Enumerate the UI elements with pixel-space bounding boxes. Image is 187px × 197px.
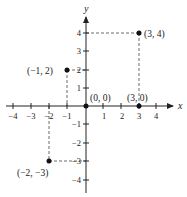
svg-text:4: 4 xyxy=(77,28,82,38)
svg-text:−1: −1 xyxy=(62,111,71,121)
x-tick-labels: −4 −3 −2 −1 1 2 3 4 xyxy=(8,111,158,121)
svg-text:(3, 4): (3, 4) xyxy=(144,29,165,40)
svg-text:3: 3 xyxy=(137,111,141,121)
svg-text:1: 1 xyxy=(102,111,106,121)
svg-text:−3: −3 xyxy=(26,111,35,121)
svg-text:−3: −3 xyxy=(72,156,81,166)
svg-text:(3, 0): (3, 0) xyxy=(127,93,148,104)
svg-text:1: 1 xyxy=(77,83,81,93)
svg-text:−2: −2 xyxy=(44,111,53,121)
svg-text:3: 3 xyxy=(77,46,81,56)
svg-text:(−1, 2): (−1, 2) xyxy=(27,66,53,77)
point-neg2-neg3 xyxy=(47,159,52,164)
svg-text:2: 2 xyxy=(120,111,124,121)
point-0-0 xyxy=(84,104,89,109)
point-3-0 xyxy=(137,104,142,109)
x-axis-label: x xyxy=(177,100,183,111)
point-3-4 xyxy=(137,31,142,36)
y-axis-label: y xyxy=(83,3,89,14)
svg-text:−4: −4 xyxy=(72,175,82,185)
svg-text:(−2, −3): (−2, −3) xyxy=(17,168,48,179)
svg-text:−2: −2 xyxy=(72,138,81,148)
coordinate-plane: x y −4 −3 −2 −1 1 2 3 4 4 3 2 1 −1 xyxy=(0,0,187,197)
svg-text:2: 2 xyxy=(77,65,81,75)
svg-text:(0, 0): (0, 0) xyxy=(90,93,111,104)
svg-text:4: 4 xyxy=(154,111,159,121)
svg-text:−4: −4 xyxy=(8,111,18,121)
point-neg1-2 xyxy=(65,68,70,73)
point-labels: (3, 4) (−1, 2) (0, 0) (3, 0) (−2, −3) xyxy=(17,29,165,179)
svg-text:−1: −1 xyxy=(72,119,81,129)
